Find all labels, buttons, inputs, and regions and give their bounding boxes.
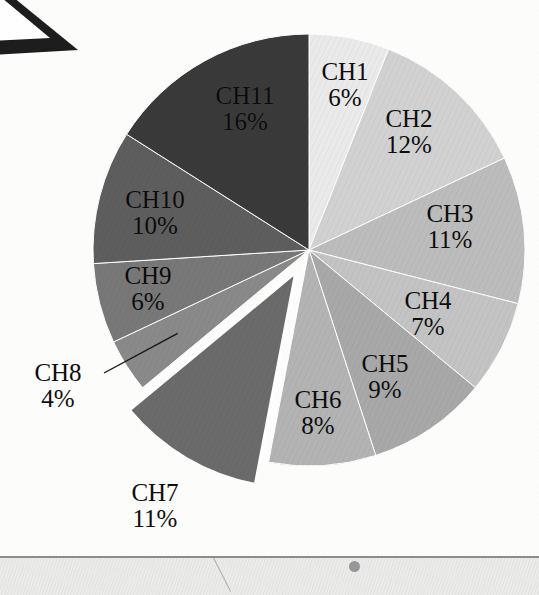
pie-label-percent-ch2: 12% (385, 131, 432, 157)
pie-label-percent-ch11: 16% (216, 108, 275, 134)
pie-label-ch6: CH68% (294, 387, 341, 438)
pie-label-percent-ch5: 9% (361, 376, 408, 402)
pie-label-name-ch1: CH1 (321, 59, 368, 85)
pie-label-ch10: CH1010% (125, 187, 185, 238)
pie-label-percent-ch6: 8% (294, 412, 341, 438)
pie-label-ch7: CH711% (131, 480, 178, 531)
pie-label-percent-ch1: 6% (321, 84, 368, 110)
pie-label-percent-ch7: 11% (131, 505, 178, 531)
pie-label-ch8: CH84% (34, 360, 81, 411)
pie-label-ch1: CH16% (321, 59, 368, 110)
pie-label-percent-ch3: 11% (426, 226, 473, 252)
pie-label-name-ch4: CH4 (404, 288, 451, 314)
pie-label-name-ch9: CH9 (124, 263, 171, 289)
pie-label-ch11: CH1116% (216, 83, 275, 134)
pie-label-name-ch3: CH3 (426, 201, 473, 227)
pie-label-name-ch11: CH11 (216, 83, 275, 109)
pie-chart-page: CH16%CH212%CH311%CH47%CH59%CH68%CH711%CH… (0, 0, 539, 595)
pie-label-ch3: CH311% (426, 201, 473, 252)
pie-label-percent-ch9: 6% (124, 288, 171, 314)
pie-label-percent-ch10: 10% (125, 212, 185, 238)
pie-label-name-ch7: CH7 (131, 480, 178, 506)
pie-label-percent-ch4: 7% (404, 313, 451, 339)
pie-label-ch9: CH96% (124, 263, 171, 314)
pie-label-percent-ch8: 4% (34, 385, 81, 411)
pie-label-name-ch8: CH8 (34, 360, 81, 386)
pie-label-ch2: CH212% (385, 106, 432, 157)
pie-label-ch5: CH59% (361, 351, 408, 402)
pie-label-name-ch10: CH10 (125, 187, 185, 213)
pie-label-name-ch6: CH6 (294, 387, 341, 413)
pie-label-name-ch5: CH5 (361, 351, 408, 377)
pie-label-ch4: CH47% (404, 288, 451, 339)
pie-label-name-ch2: CH2 (385, 106, 432, 132)
